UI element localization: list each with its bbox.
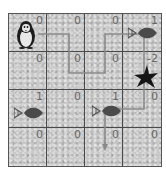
- reward-label: 0: [74, 15, 81, 27]
- reward-label: 0: [112, 15, 119, 27]
- fish-icon: [14, 105, 44, 121]
- gridworld-board: 0 0 0 1 0 0 0 -2 1 0 1 0 0 0 0 0: [8, 13, 162, 167]
- cell-0-2[interactable]: 0: [85, 14, 123, 52]
- cell-0-1[interactable]: 0: [47, 14, 85, 52]
- reward-label: 1: [36, 91, 43, 103]
- reward-label: 0: [36, 129, 43, 141]
- reward-label: 0: [112, 53, 119, 65]
- cell-1-0[interactable]: 0: [9, 52, 47, 90]
- reward-label: 0: [74, 91, 81, 103]
- cell-3-0[interactable]: 0: [9, 128, 47, 166]
- fish-icon: [128, 25, 158, 41]
- fish-icon: [92, 103, 122, 119]
- cell-2-1[interactable]: 0: [47, 90, 85, 128]
- cell-3-2[interactable]: 0: [85, 128, 123, 166]
- reward-label: 1: [112, 91, 119, 103]
- reward-label: 0: [74, 129, 81, 141]
- reward-label: 0: [36, 53, 43, 65]
- penguin-icon[interactable]: [14, 19, 38, 49]
- cell-3-3[interactable]: 0: [123, 128, 161, 166]
- cell-1-1[interactable]: 0: [47, 52, 85, 90]
- reward-label: 0: [74, 53, 81, 65]
- cell-3-1[interactable]: 0: [47, 128, 85, 166]
- reward-label: 0: [151, 129, 158, 141]
- reward-label: 0: [112, 129, 119, 141]
- reward-label: 0: [151, 91, 158, 103]
- star-hazard-icon: [133, 64, 159, 90]
- cell-1-2[interactable]: 0: [85, 52, 123, 90]
- cell-2-3[interactable]: 0: [123, 90, 161, 128]
